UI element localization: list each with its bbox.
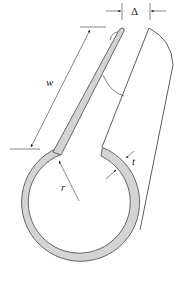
r-dimension: r (59, 161, 79, 201)
angle-arc (103, 75, 124, 96)
delta-label: Δ (131, 5, 138, 17)
r-label: r (61, 181, 66, 193)
t-label: t (132, 155, 136, 167)
ring-body (22, 148, 140, 262)
flange-strip (53, 28, 124, 155)
right-surface-edge (140, 28, 173, 230)
delta-dimension: Δ (106, 3, 166, 20)
split-ring-diagram: Δ w r t (0, 0, 184, 282)
right-surface-outline (102, 28, 149, 147)
w-label: w (46, 76, 54, 88)
